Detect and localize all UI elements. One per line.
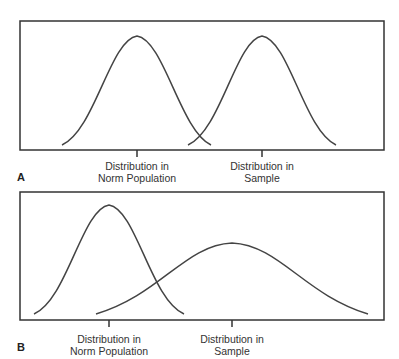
panel-b-sample-curve [96, 243, 368, 314]
distribution-diagram [0, 0, 399, 359]
label-line: Distribution in [202, 160, 322, 172]
panel-a-sample-curve [188, 36, 336, 145]
label-line: Distribution in [77, 160, 197, 172]
panel-b-norm-label: Distribution in Norm Population [49, 333, 169, 357]
label-line: Sample [172, 345, 292, 357]
label-line: Distribution in [49, 333, 169, 345]
panel-a-norm-curve [62, 36, 211, 145]
panel-a-frame [20, 21, 384, 150]
panel-b-norm-curve [34, 205, 184, 314]
label-line: Sample [202, 172, 322, 184]
panel-a-letter: A [17, 171, 25, 183]
panel-a-norm-label: Distribution in Norm Population [77, 160, 197, 184]
panel-b-sample-label: Distribution in Sample [172, 333, 292, 357]
panel-a-sample-label: Distribution in Sample [202, 160, 322, 184]
panel-b-frame [20, 192, 384, 320]
label-line: Norm Population [77, 172, 197, 184]
panel-b-letter: B [17, 341, 25, 353]
label-line: Norm Population [49, 345, 169, 357]
label-line: Distribution in [172, 333, 292, 345]
